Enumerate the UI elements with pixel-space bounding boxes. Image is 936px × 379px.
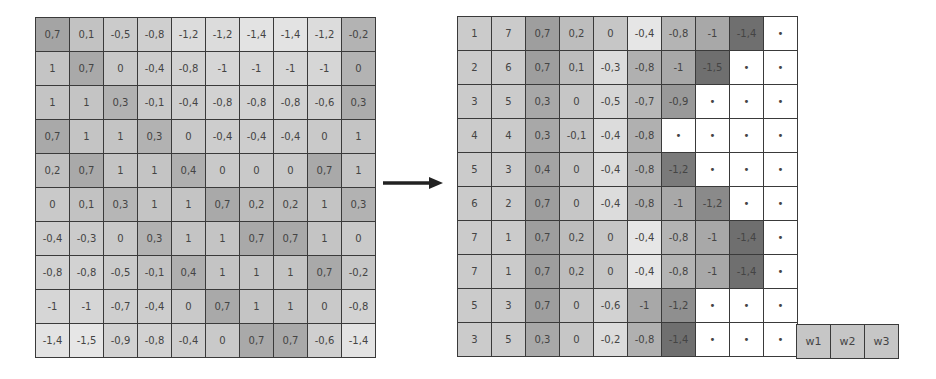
matrix-cell: 7 [458, 255, 492, 289]
matrix-cell: -0,5 [104, 256, 138, 290]
matrix-cell: 0,7 [526, 255, 560, 289]
matrix-cell: • [764, 289, 798, 323]
matrix-cell: -1,2 [696, 187, 730, 221]
matrix-cell: 1 [240, 290, 274, 324]
matrix-cell: 5 [492, 85, 526, 119]
matrix-row: 620,70-0,4-0,8-1-1,2•• [458, 187, 798, 221]
matrix-cell: 0 [104, 222, 138, 256]
matrix-cell: -1,4 [240, 18, 274, 52]
matrix-cell: -1,2 [662, 289, 696, 323]
matrix-cell: 0,3 [138, 120, 172, 154]
matrix-cell: • [764, 119, 798, 153]
matrix-cell: 0,7 [274, 324, 308, 358]
matrix-cell: 0,3 [104, 86, 138, 120]
matrix-cell: -1,4 [730, 221, 764, 255]
matrix-row: 350,30-0,5-0,7-0,9••• [458, 85, 798, 119]
matrix-cell: -0,6 [594, 289, 628, 323]
matrix-cell: 1 [308, 222, 342, 256]
matrix-cell: 0,2 [560, 17, 594, 51]
matrix-row: 0,20,7110,40000,71 [36, 154, 376, 188]
matrix-cell: -0,8 [172, 52, 206, 86]
matrix-cell: 1 [492, 221, 526, 255]
matrix-cell: 0 [560, 289, 594, 323]
matrix-cell: -1 [662, 187, 696, 221]
matrix-cell: 0 [342, 222, 376, 256]
matrix-cell: 0,7 [526, 289, 560, 323]
matrix-cell: -1,4 [342, 324, 376, 358]
matrix-cell: -0,3 [70, 222, 104, 256]
matrix-cell: 0,7 [240, 324, 274, 358]
matrix-cell: 0,7 [36, 18, 70, 52]
matrix-cell: 1 [240, 256, 274, 290]
matrix-cell: -0,4 [274, 120, 308, 154]
matrix-cell: -1,4 [730, 17, 764, 51]
matrix-cell: 0 [308, 290, 342, 324]
matrix-cell: -1 [628, 289, 662, 323]
matrix-cell: 1 [206, 222, 240, 256]
matrix-cell: -0,4 [138, 290, 172, 324]
matrix-cell: • [764, 255, 798, 289]
matrix-cell: 0,3 [342, 86, 376, 120]
matrix-cell: -1,4 [730, 255, 764, 289]
matrix-cell: -0,4 [594, 187, 628, 221]
matrix-cell: 1 [342, 120, 376, 154]
matrix-cell: -0,8 [628, 153, 662, 187]
matrix-cell: 3 [458, 85, 492, 119]
matrix-cell: 0,7 [70, 52, 104, 86]
matrix-cell: -0,8 [138, 18, 172, 52]
matrix-cell: 1 [172, 188, 206, 222]
matrix-cell: 2 [492, 187, 526, 221]
matrix-cell: -0,2 [594, 323, 628, 357]
matrix-row: -0,4-0,300,3110,70,710 [36, 222, 376, 256]
matrix-cell: -0,8 [206, 86, 240, 120]
matrix-cell: -1,2 [662, 153, 696, 187]
matrix-cell: -0,8 [662, 221, 696, 255]
matrix-cell: -0,8 [70, 256, 104, 290]
matrix-cell: 1 [206, 256, 240, 290]
matrix-cell: -0,4 [172, 324, 206, 358]
matrix-cell: 0 [240, 154, 274, 188]
matrix-cell: 1 [492, 255, 526, 289]
matrix-cell: 1 [458, 17, 492, 51]
matrix-cell: -0,8 [628, 51, 662, 85]
matrix-cell: • [696, 323, 730, 357]
matrix-cell: • [764, 85, 798, 119]
matrix-cell: -1 [696, 221, 730, 255]
matrix-cell: 0 [594, 255, 628, 289]
matrix-cell: 1 [274, 290, 308, 324]
matrix-cell: -1,2 [172, 18, 206, 52]
weight-cell-w2: w2 [831, 325, 865, 359]
matrix-cell: 1 [274, 256, 308, 290]
matrix-cell: 0 [308, 120, 342, 154]
matrix-row: 170,70,20-0,4-0,8-1-1,4• [458, 17, 798, 51]
matrix-cell: 0 [172, 290, 206, 324]
matrix-row: 0,7110,30-0,4-0,4-0,401 [36, 120, 376, 154]
matrix-cell: • [730, 153, 764, 187]
matrix-cell: • [764, 323, 798, 357]
matrix-cell: -1 [696, 255, 730, 289]
weight-cells: w1 w2 w3 [796, 324, 899, 359]
matrix-cell: 0,2 [36, 154, 70, 188]
matrix-cell: 1 [308, 188, 342, 222]
matrix-cell: 0 [560, 187, 594, 221]
matrix-cell: -1,4 [662, 323, 696, 357]
matrix-cell: • [730, 85, 764, 119]
matrix-cell: 1 [36, 86, 70, 120]
matrix-cell: • [696, 289, 730, 323]
matrix-cell: 3 [492, 289, 526, 323]
matrix-cell: • [730, 119, 764, 153]
matrix-cell: • [764, 17, 798, 51]
matrix-cell: -0,6 [308, 86, 342, 120]
matrix-cell: • [730, 187, 764, 221]
matrix-cell: 0,7 [308, 256, 342, 290]
matrix-row: -1-1-0,7-0,400,7110-0,8 [36, 290, 376, 324]
matrix-cell: -1 [308, 52, 342, 86]
matrix-row: 350,30-0,2-0,8-1,4••• [458, 323, 798, 357]
matrix-cell: 0,4 [172, 154, 206, 188]
matrix-cell: • [662, 119, 696, 153]
matrix-cell: 1 [104, 120, 138, 154]
matrix-cell: -1,2 [206, 18, 240, 52]
matrix-row: 110,3-0,1-0,4-0,8-0,8-0,8-0,60,3 [36, 86, 376, 120]
matrix-row: 530,40-0,4-0,8-1,2••• [458, 153, 798, 187]
weight-cell-w1: w1 [797, 325, 831, 359]
